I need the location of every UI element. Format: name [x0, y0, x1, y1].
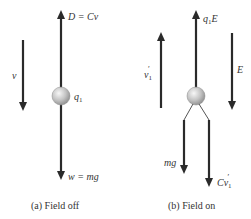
velocity-label-a: v: [12, 70, 17, 81]
field-label-b: E: [236, 64, 243, 75]
gravity-label-b: mg: [164, 157, 176, 168]
connector-line: [199, 104, 209, 120]
panel-a-field-off: v D = Cv w = mg q1 (a) Field off: [12, 10, 99, 212]
velocity-label-b: v1′: [144, 65, 152, 82]
charged-drop-ball-a: [52, 87, 70, 105]
charge-label-a: q1: [74, 91, 83, 104]
drag-label-b: Cv1′: [217, 173, 232, 190]
gravity-arrow-b: [180, 120, 188, 174]
arrowhead-up-icon: [192, 10, 200, 19]
velocity-arrow-a: [19, 40, 27, 111]
field-diagram: v D = Cv w = mg q1 (a) Field off v1′: [0, 0, 251, 219]
electric-force-arrow-b: [192, 10, 200, 88]
drag-arrow-b: [205, 120, 213, 187]
arrowhead-down-icon: [205, 178, 213, 187]
drag-label-a: D = Cv: [67, 11, 99, 22]
arrowhead-up-icon: [57, 10, 65, 19]
arrowhead-down-icon: [228, 101, 236, 110]
velocity-arrow-b: [157, 32, 165, 108]
weight-label-a: w = mg: [68, 171, 99, 182]
arrowhead-down-icon: [57, 171, 65, 180]
connector-line: [184, 104, 193, 120]
electric-force-label-b: q1E: [203, 13, 218, 26]
weight-arrow-a: [57, 104, 65, 180]
electric-field-arrow-b: [228, 33, 236, 110]
caption-b: (b) Field on: [168, 200, 215, 212]
arrowhead-up-icon: [157, 32, 165, 41]
panel-b-field-on: v1′ q1E E mg Cv1′ (b) Field: [144, 10, 243, 212]
drag-arrow-a: [57, 10, 65, 88]
charged-drop-ball-b: [187, 87, 205, 105]
arrowhead-down-icon: [19, 102, 27, 111]
caption-a: (a) Field off: [31, 200, 80, 212]
arrowhead-down-icon: [180, 165, 188, 174]
